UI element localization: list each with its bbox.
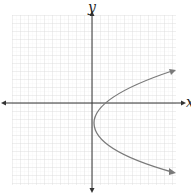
coordinate-graph: [0, 0, 191, 193]
x-axis-label: x: [186, 95, 191, 109]
y-axis-bottom-arrow-icon: [90, 188, 95, 193]
x-axis-left-arrow-icon: [1, 101, 6, 106]
y-axis-label: y: [88, 0, 96, 14]
